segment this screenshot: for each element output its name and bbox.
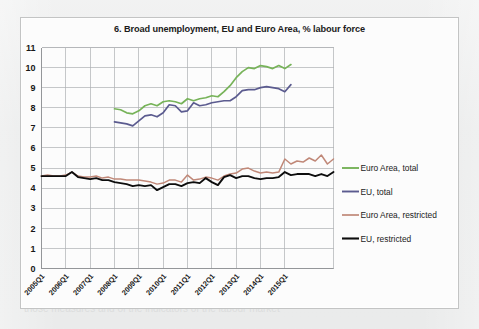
y-axis-tick-label: 1 bbox=[30, 244, 35, 254]
y-axis-tick-label: 4 bbox=[30, 183, 35, 193]
legend-item-label: Euro Area, total bbox=[361, 163, 419, 173]
x-axis-tick-label: 2009Q1 bbox=[120, 272, 144, 297]
y-axis-tick-labels: 01234567891011 bbox=[25, 43, 35, 274]
x-axis-tick-label: 2006Q1 bbox=[47, 272, 71, 297]
x-axis-tick-label: 2014Q1 bbox=[241, 272, 265, 297]
x-axis-tick-labels: 2005Q12006Q12007Q12008Q12009Q12010Q12011… bbox=[22, 272, 289, 297]
series-line-euro-area-total bbox=[115, 65, 291, 114]
chart-legend: Euro Area, totalEU, totalEuro Area, rest… bbox=[342, 163, 437, 244]
y-axis-tick-label: 0 bbox=[30, 264, 35, 274]
x-axis-tick-label: 2012Q1 bbox=[193, 272, 217, 297]
legend-item-label: EU, total bbox=[361, 187, 393, 197]
y-axis-tick-label: 9 bbox=[30, 83, 35, 93]
chart-container: 6. Broad unemployment, EU and Euro Area,… bbox=[20, 17, 459, 309]
grid-lines bbox=[42, 48, 334, 269]
x-axis-tick-label: 2015Q1 bbox=[266, 272, 290, 297]
line-chart-plot: 01234567891011 2005Q12006Q12007Q12008Q12… bbox=[21, 18, 458, 308]
y-axis-tick-label: 3 bbox=[30, 203, 35, 213]
y-axis-tick-label: 7 bbox=[30, 123, 35, 133]
x-axis-tick-label: 2013Q1 bbox=[217, 272, 241, 297]
y-axis-tick-label: 11 bbox=[26, 43, 36, 53]
document-page: the bordes measures to considered ongoin… bbox=[0, 0, 479, 329]
y-axis-tick-label: 2 bbox=[30, 224, 35, 234]
legend-item-label: Euro Area, restricted bbox=[361, 210, 438, 220]
y-axis-tick-label: 6 bbox=[30, 143, 35, 153]
x-axis-tick-label: 2010Q1 bbox=[144, 272, 168, 297]
x-axis-tick-label: 2011Q1 bbox=[169, 272, 193, 297]
y-axis-tick-label: 8 bbox=[30, 103, 35, 113]
y-axis-tick-label: 10 bbox=[25, 63, 35, 73]
x-axis-tick-label: 2007Q1 bbox=[71, 272, 95, 297]
series-line-eu-total bbox=[115, 85, 291, 126]
x-axis-tick-label: 2008Q1 bbox=[95, 272, 119, 297]
x-axis-tick-label: 2005Q1 bbox=[22, 272, 46, 297]
legend-item-label: EU, restricted bbox=[361, 234, 412, 244]
y-axis-tick-label: 5 bbox=[30, 163, 35, 173]
